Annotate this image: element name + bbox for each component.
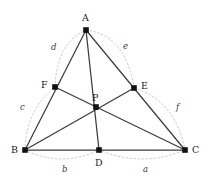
cevian-lines xyxy=(25,30,185,150)
point-E xyxy=(131,85,137,91)
arc-b-B-D xyxy=(25,150,99,159)
arc-a-D-C xyxy=(99,150,185,159)
geometry-figure: A B C D E F P a b c d e f xyxy=(0,0,206,184)
arc-group xyxy=(25,30,185,159)
point-F xyxy=(52,84,58,90)
point-markers xyxy=(22,27,188,153)
point-D xyxy=(96,147,102,153)
point-A xyxy=(83,27,89,33)
point-P xyxy=(93,104,99,110)
cevian-A-D xyxy=(86,30,99,150)
triangle-edges xyxy=(25,30,185,150)
point-B xyxy=(22,147,28,153)
point-C xyxy=(182,147,188,153)
geometry-canvas xyxy=(0,0,206,184)
